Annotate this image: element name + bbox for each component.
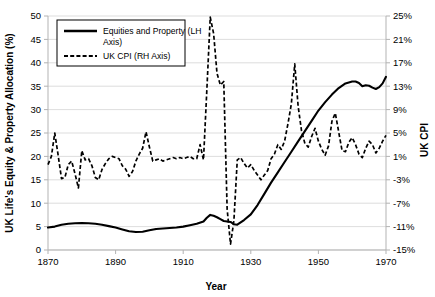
y-axis-title: UK Life's Equity & Property Allocation (… [4,33,15,232]
y-axis-tick-label: 40 [30,57,41,68]
y-axis-tick-label: 10 [30,198,41,209]
y-axis-tick-label: 25 [30,127,41,138]
chart-svg: 05101520253035404550 -15%-11%-7%-3%1%5%9… [0,0,435,297]
y-axis-tick-label: 45 [30,34,41,45]
x-axis-tick-label: 1870 [37,256,58,267]
x-axis-tick-label: 1970 [375,256,396,267]
y2-axis-tick-label: -11% [393,221,415,232]
y2-axis-tick-label: -7% [393,198,410,209]
y2-axis-tick-label: 9% [393,104,407,115]
x-axis-tick-label: 1930 [240,256,261,267]
legend: Equities and Property (LH Axis) UK CPI (… [57,20,201,66]
y2-axis-tick-label: 25% [393,10,413,21]
y-axis-tick-label: 5 [36,221,41,232]
chart-container: 05101520253035404550 -15%-11%-7%-3%1%5%9… [0,0,435,297]
x-axis-tick-label: 1890 [105,256,126,267]
y2-axis-tick-label: 1% [393,151,407,162]
y2-axis-tick-label: 13% [393,81,413,92]
y-axis-tick-label: 35 [30,81,41,92]
legend-label-cpi: UK CPI (RH Axis) [103,51,170,61]
y-axis-tick-label: 20 [30,151,41,162]
y-axis-tick-label: 30 [30,104,41,115]
y-axis-tick-label: 50 [30,10,41,21]
legend-label-equities-line2: Axis) [103,37,122,47]
x-axis-tick-label: 1910 [173,256,194,267]
y2-axis-tick-label: 5% [393,127,407,138]
y2-axis-tick-label: -3% [393,174,410,185]
y2-axis-tick-label: 21% [393,34,413,45]
y2-axis-tick-label: -15% [393,244,416,255]
y2-axis-title: UK CPI [419,123,430,157]
y-axis-tick-label: 15 [30,174,41,185]
x-axis-title: Year [205,281,226,292]
y-axis-tick-label: 0 [36,244,41,255]
y2-axis-tick-label: 17% [393,57,413,68]
x-axis-tick-label: 1950 [308,256,329,267]
legend-label-equities-line1: Equities and Property (LH [103,26,201,36]
